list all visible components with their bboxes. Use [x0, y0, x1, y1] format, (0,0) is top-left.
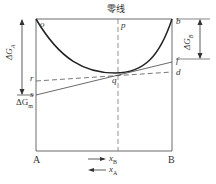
axis-label-a: A [33, 155, 40, 165]
delta-ga-arrow-bottom [20, 89, 25, 95]
axis-label-b: B [168, 155, 175, 165]
point-o: o [40, 20, 45, 29]
delta-gm-label: ΔGm [16, 98, 33, 109]
point-q: q [112, 76, 117, 85]
delta-gb-arrow-top [198, 19, 203, 25]
delta-gb-arrow-bottom [198, 53, 203, 59]
delta-gb-label: ΔGB [183, 35, 194, 50]
point-b: b [176, 17, 181, 26]
point-p: p [121, 21, 126, 30]
rd-dashed-line [36, 72, 172, 81]
xb-arrowhead [100, 157, 106, 161]
xa-arrowhead [88, 168, 94, 172]
free-energy-curve [36, 19, 172, 73]
point-d: d [176, 68, 181, 77]
point-r: r [30, 74, 34, 83]
xa-label: xA [109, 165, 117, 176]
delta-ga-arrow-top [20, 19, 25, 25]
point-f: f [176, 56, 179, 65]
delta-ga-label: ΔGA [5, 45, 16, 60]
sf-tangent-line [36, 62, 172, 95]
zero-line-label: 零线 [107, 5, 125, 14]
